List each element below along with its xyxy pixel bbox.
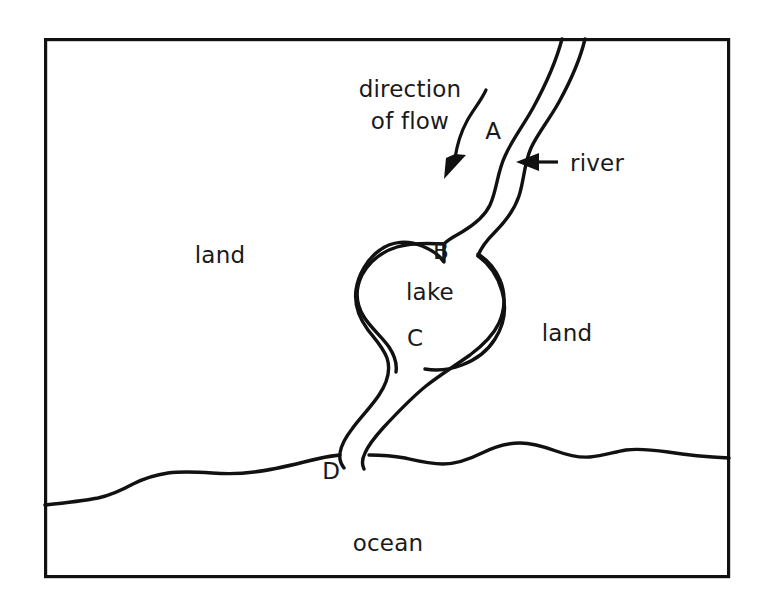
annotation-direction-of-flow-line2: of flow (371, 108, 449, 134)
annotation-direction-of-flow-line1: direction (359, 76, 462, 102)
river-lake-ocean-diagram: land land lake ocean A B C D direction o… (0, 0, 763, 616)
point-label-d: D (322, 458, 340, 484)
region-label-land-right: land (542, 320, 592, 346)
point-label-b: B (433, 238, 449, 264)
region-label-ocean: ocean (353, 530, 424, 556)
diagram-root: land land lake ocean A B C D direction o… (0, 0, 763, 616)
region-label-lake: lake (406, 279, 454, 305)
point-label-a: A (485, 118, 501, 144)
annotation-river-label: river (570, 150, 624, 176)
region-label-land-left: land (195, 242, 245, 268)
point-label-c: C (407, 325, 423, 351)
